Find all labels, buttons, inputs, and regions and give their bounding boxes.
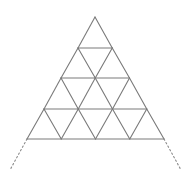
dotted-extension-right — [164, 139, 181, 170]
edge-right — [112, 48, 129, 78]
edge-left — [130, 109, 147, 139]
edge-right — [113, 109, 130, 139]
edge-right — [95, 78, 112, 109]
edge-left — [78, 78, 95, 109]
edge-right — [78, 109, 95, 139]
edge-right — [78, 48, 95, 78]
edge-left — [78, 17, 95, 48]
edge-right — [130, 78, 147, 109]
edge-left — [61, 48, 78, 78]
dotted-extensions — [10, 139, 181, 170]
triangle-grid — [27, 17, 164, 139]
edge-right — [95, 17, 112, 48]
edge-left — [27, 109, 44, 139]
triangle-diagram — [0, 0, 193, 179]
edge-right — [44, 109, 61, 139]
dotted-extension-left — [10, 139, 27, 170]
triangle-grid-figure — [0, 0, 193, 179]
edge-right — [147, 109, 164, 139]
edge-right — [61, 78, 78, 109]
edge-left — [96, 109, 113, 139]
edge-left — [113, 78, 130, 109]
edge-left — [95, 48, 112, 78]
edge-left — [44, 78, 61, 109]
edge-left — [61, 109, 78, 139]
